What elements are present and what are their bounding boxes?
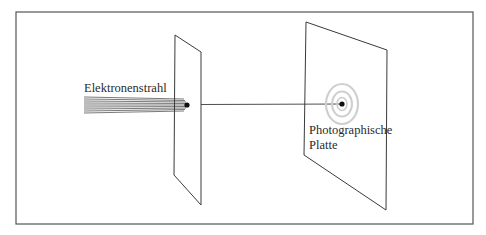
diagram-canvas: Elektronenstrahl Photographische Platte	[0, 0, 486, 235]
beam-line	[84, 111, 184, 113]
beam-line	[84, 107, 187, 108]
central-spot	[339, 101, 344, 106]
figure-frame	[16, 12, 473, 224]
beam-line	[84, 103, 187, 104]
sample-dot	[184, 102, 189, 107]
plate-label-line2: Platte	[309, 138, 338, 152]
sample-plate	[174, 35, 201, 205]
beam-label: Elektronenstrahl	[84, 81, 167, 95]
beam-line	[84, 108, 186, 109]
beam-line	[84, 101, 186, 102]
beam-line	[84, 110, 185, 112]
transmitted-ray	[201, 104, 342, 105]
electron-beam	[84, 97, 187, 113]
beam-line	[84, 99, 185, 101]
plate-label-line1: Photographische	[309, 123, 393, 137]
beam-line	[84, 97, 184, 99]
